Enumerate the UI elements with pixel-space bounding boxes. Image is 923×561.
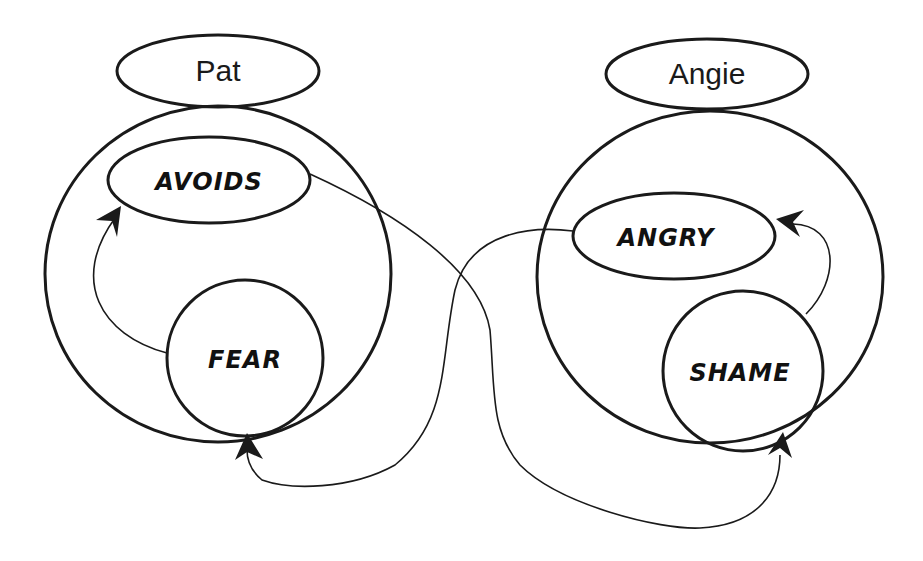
person-pat: Pat AVOIDS FEAR (45, 35, 391, 442)
node-fear: FEAR (167, 280, 323, 436)
emotion-label-fear: FEAR (208, 346, 282, 374)
person-name-angie: Angie (669, 57, 746, 90)
name-bubble-pat: Pat (117, 35, 319, 107)
arrow-fear-to-avoids (94, 206, 167, 353)
cycle-diagram: Pat AVOIDS FEAR Angie A (0, 0, 923, 561)
emotion-label-shame: SHAME (689, 359, 790, 387)
arrowhead-icon (96, 206, 121, 237)
arrow-angry-to-fear (235, 229, 573, 486)
emotion-label-avoids: AVOIDS (153, 168, 263, 196)
arrow-shame-to-angry (776, 210, 830, 314)
arrow-avoids-to-shame (310, 174, 792, 528)
node-angry: ANGRY (573, 193, 775, 279)
person-angie: Angie ANGRY SHAME (537, 39, 883, 451)
arrowhead-icon (776, 210, 804, 237)
node-shame: SHAME (663, 291, 823, 451)
person-name-pat: Pat (195, 54, 241, 87)
person-circle-pat (45, 106, 391, 442)
emotion-label-angry: ANGRY (615, 224, 716, 252)
node-avoids: AVOIDS (108, 137, 310, 223)
name-bubble-angie: Angie (606, 39, 808, 109)
